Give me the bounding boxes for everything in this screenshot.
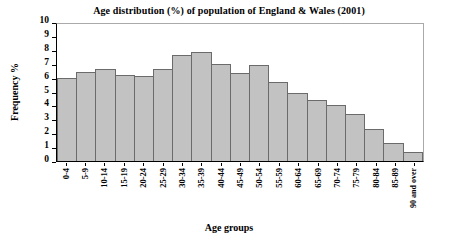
bar	[172, 55, 192, 161]
y-axis-tick-label: 6	[44, 72, 49, 82]
y-axis-tick-label: 10	[40, 16, 50, 26]
y-axis-tick-label: 0	[44, 155, 49, 165]
y-axis-tick-label: 7	[44, 58, 49, 68]
bar-chart: Age distribution (%) of population of En…	[0, 0, 458, 245]
bar	[307, 100, 327, 161]
x-axis-tick-mark	[182, 163, 183, 166]
x-axis-tick: 85-89	[385, 163, 404, 219]
x-axis-tick-label: 65-69	[313, 168, 322, 188]
bar	[287, 93, 307, 161]
x-axis-tick: 90 and over	[405, 163, 424, 219]
x-axis-tick-mark	[221, 163, 222, 166]
x-axis-tick: 25-29	[153, 163, 172, 219]
x-axis-tick: 0-4	[56, 163, 75, 219]
x-axis-tick-label: 20-24	[139, 168, 148, 188]
x-axis-tick-label: 0-4	[61, 168, 70, 179]
x-axis-tick-label: 10-14	[100, 168, 109, 188]
x-axis-tick-mark	[240, 163, 241, 166]
x-axis-tick-label: 30-34	[178, 168, 187, 188]
y-axis-tick-label: 3	[44, 113, 49, 123]
x-axis-tick: 70-74	[327, 163, 346, 219]
x-axis-tick-mark	[201, 163, 202, 166]
bar	[57, 78, 77, 161]
bar	[326, 105, 346, 161]
x-axis-tick-mark	[395, 163, 396, 166]
chart-title: Age distribution (%) of population of En…	[0, 5, 458, 16]
x-axis-tick-mark	[337, 163, 338, 166]
x-axis-tick: 60-64	[289, 163, 308, 219]
x-axis-tick-label: 60-64	[294, 168, 303, 188]
bar	[345, 114, 365, 161]
x-axis-tick: 15-19	[114, 163, 133, 219]
x-axis-tick-mark	[279, 163, 280, 166]
x-axis-ticks: 0-45-910-1415-1920-2425-2930-3435-3940-4…	[56, 163, 424, 219]
x-axis-tick: 20-24	[134, 163, 153, 219]
x-axis-tick: 75-79	[347, 163, 366, 219]
x-axis-tick: 40-44	[211, 163, 230, 219]
x-axis-tick-label: 75-79	[352, 168, 361, 188]
bar	[115, 75, 135, 161]
x-axis-tick-mark	[124, 163, 125, 166]
x-axis-tick-mark	[143, 163, 144, 166]
x-axis-tick: 65-69	[308, 163, 327, 219]
x-axis-tick-mark	[85, 163, 86, 166]
x-axis-title: Age groups	[0, 222, 458, 233]
y-axis-tick-label: 8	[44, 44, 49, 54]
x-axis-tick-label: 55-59	[275, 168, 284, 188]
x-axis-tick: 5-9	[75, 163, 94, 219]
x-axis-tick-label: 15-19	[120, 168, 129, 188]
x-axis-tick: 30-34	[172, 163, 191, 219]
x-axis-tick-mark	[356, 163, 357, 166]
x-axis-tick-label: 40-44	[216, 168, 225, 188]
x-axis-tick-mark	[163, 163, 164, 166]
x-axis-tick-label: 70-74	[333, 168, 342, 188]
x-axis-tick: 55-59	[269, 163, 288, 219]
x-axis-tick: 10-14	[95, 163, 114, 219]
x-axis-tick-label: 5-9	[81, 168, 90, 179]
y-axis-tick-label: 9	[44, 30, 49, 40]
bar	[249, 65, 269, 161]
x-axis-tick-label: 45-49	[236, 168, 245, 188]
x-axis-tick: 35-39	[192, 163, 211, 219]
bar-series	[57, 24, 423, 161]
x-axis-tick-mark	[376, 163, 377, 166]
x-axis-tick-label: 90 and over	[410, 168, 418, 208]
bar	[153, 69, 173, 161]
y-axis-tick-label: 4	[44, 99, 49, 109]
bar	[268, 82, 288, 161]
x-axis-tick: 80-84	[366, 163, 385, 219]
x-axis-tick-mark	[66, 163, 67, 166]
bar	[364, 129, 384, 161]
x-axis-tick-label: 80-84	[371, 168, 380, 188]
x-axis-tick-label: 85-89	[391, 168, 400, 188]
bar	[191, 52, 211, 161]
bar	[403, 152, 423, 161]
x-axis-tick-label: 35-39	[197, 168, 206, 188]
y-axis-ticks: 012345678910	[0, 23, 56, 162]
x-axis-tick-mark	[414, 163, 415, 166]
y-axis-tick-label: 5	[44, 86, 49, 96]
y-axis-tick-label: 2	[44, 127, 49, 137]
x-axis-tick-mark	[298, 163, 299, 166]
bar	[211, 64, 231, 161]
bar	[95, 69, 115, 161]
plot-area	[56, 23, 424, 162]
bar	[76, 72, 96, 161]
x-axis-tick: 45-49	[230, 163, 249, 219]
x-axis-tick-mark	[259, 163, 260, 166]
x-axis-tick-label: 50-54	[255, 168, 264, 188]
x-axis-tick: 50-54	[250, 163, 269, 219]
bar	[134, 76, 154, 161]
x-axis-tick-mark	[318, 163, 319, 166]
y-axis-tick-label: 1	[44, 141, 49, 151]
x-axis-tick-mark	[104, 163, 105, 166]
bar	[230, 73, 250, 161]
x-axis-tick-label: 25-29	[158, 168, 167, 188]
bar	[383, 143, 403, 161]
